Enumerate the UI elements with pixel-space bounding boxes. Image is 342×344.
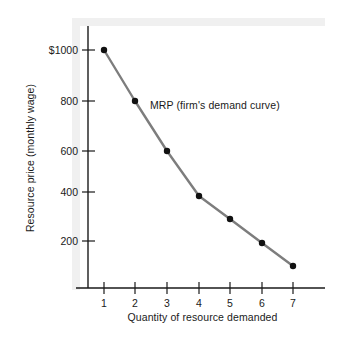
x-tick-label-6: 6 xyxy=(259,297,265,309)
x-tick-label-5: 5 xyxy=(227,297,233,309)
data-point-5 xyxy=(227,216,233,222)
x-axis-title: Quantity of resource demanded xyxy=(80,311,325,323)
y-axis-title: Resource price (monthly wage) xyxy=(24,38,36,278)
x-tick-label-4: 4 xyxy=(196,297,202,309)
data-point-4 xyxy=(196,193,202,199)
x-tick-label-2: 2 xyxy=(132,297,138,309)
data-point-1 xyxy=(101,47,107,53)
data-point-2 xyxy=(132,98,138,104)
x-tick-label-3: 3 xyxy=(164,297,170,309)
figure-container: $1000 800 600 400 200 1 2 3 4 5 6 7 MRP … xyxy=(0,0,342,344)
data-point-3 xyxy=(164,148,170,154)
data-point-markers xyxy=(101,47,296,269)
data-point-7 xyxy=(290,263,296,269)
x-tick-label-7: 7 xyxy=(290,297,296,309)
x-tick-label-1: 1 xyxy=(101,297,107,309)
mrp-curve-line xyxy=(104,50,293,266)
data-point-6 xyxy=(259,240,265,246)
mrp-curve-annotation: MRP (firm's demand curve) xyxy=(150,99,280,111)
